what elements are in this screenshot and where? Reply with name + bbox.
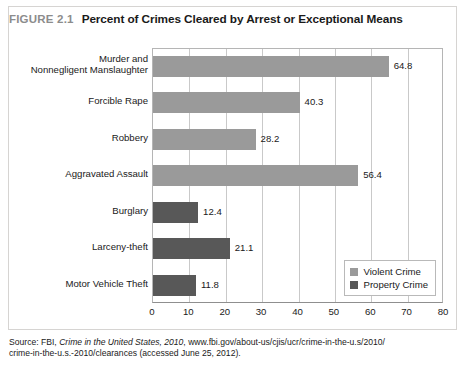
bar-row: Aggravated Assault56.4 bbox=[153, 158, 442, 194]
x-tick-label: 40 bbox=[292, 306, 303, 317]
bar-value-label: 21.1 bbox=[235, 242, 254, 253]
bar-value-label: 64.8 bbox=[394, 60, 413, 71]
legend-label: Property Crime bbox=[363, 278, 428, 291]
bar-chart: Murder andNonnegligent Manslaughter64.8F… bbox=[8, 40, 457, 325]
bar-row: Robbery28.2 bbox=[153, 122, 442, 158]
figure-number: FIGURE 2.1 bbox=[9, 13, 74, 25]
legend-item-property: Property Crime bbox=[350, 278, 428, 291]
x-tick-label: 60 bbox=[365, 306, 376, 317]
bar-value-label: 28.2 bbox=[261, 133, 280, 144]
category-label: Larceny-theft bbox=[0, 241, 148, 252]
source-publication: Crime in the United States, 2010 bbox=[59, 337, 183, 347]
legend-item-violent: Violent Crime bbox=[350, 265, 428, 278]
x-tick-label: 50 bbox=[329, 306, 340, 317]
source-line2: crime-in-the-u.s.-2010/clearances (acces… bbox=[9, 348, 241, 358]
bar-violent bbox=[153, 92, 300, 113]
bar-row: Murder andNonnegligent Manslaughter64.8 bbox=[153, 49, 442, 85]
chart-legend: Violent CrimeProperty Crime bbox=[344, 260, 436, 296]
x-axis: 01020304050607080 bbox=[152, 303, 443, 323]
category-label: Murder andNonnegligent Manslaughter bbox=[0, 53, 148, 76]
legend-swatch-icon bbox=[350, 268, 358, 276]
category-label: Robbery bbox=[0, 132, 148, 143]
category-label: Aggravated Assault bbox=[0, 168, 148, 179]
bar-violent bbox=[153, 129, 256, 150]
bar-value-label: 40.3 bbox=[305, 96, 324, 107]
bar-property bbox=[153, 238, 230, 259]
bar-value-label: 56.4 bbox=[363, 169, 382, 180]
category-label: Motor Vehicle Theft bbox=[0, 278, 148, 289]
source-note: Source: FBI, Crime in the United States,… bbox=[9, 337, 461, 358]
category-label: Forcible Rape bbox=[0, 95, 148, 106]
bar-value-label: 12.4 bbox=[203, 206, 222, 217]
bar-row: Burglary12.4 bbox=[153, 195, 442, 231]
x-tick-label: 10 bbox=[183, 306, 194, 317]
bar-value-label: 11.8 bbox=[201, 279, 219, 290]
figure-title-bar: FIGURE 2.1 Percent of Crimes Cleared by … bbox=[9, 12, 456, 34]
x-tick-label: 70 bbox=[401, 306, 412, 317]
x-tick-label: 80 bbox=[438, 306, 449, 317]
bar-violent bbox=[153, 56, 389, 77]
plot-area: Murder andNonnegligent Manslaughter64.8F… bbox=[152, 48, 443, 303]
page-title: Percent of Crimes Cleared by Arrest or E… bbox=[82, 12, 403, 26]
category-label: Burglary bbox=[0, 205, 148, 216]
bar-property bbox=[153, 275, 196, 296]
bar-violent bbox=[153, 165, 358, 186]
legend-label: Violent Crime bbox=[363, 265, 420, 278]
legend-swatch-icon bbox=[350, 281, 358, 289]
x-tick-label: 20 bbox=[219, 306, 230, 317]
x-tick-label: 30 bbox=[256, 306, 267, 317]
bar-row: Forcible Rape40.3 bbox=[153, 85, 442, 121]
source-prefix: Source: FBI, bbox=[9, 337, 59, 347]
x-tick-label: 0 bbox=[149, 306, 154, 317]
bar-property bbox=[153, 202, 198, 223]
source-suffix: , www.fbi.gov/about-us/cjis/ucr/crime-in… bbox=[183, 337, 385, 347]
